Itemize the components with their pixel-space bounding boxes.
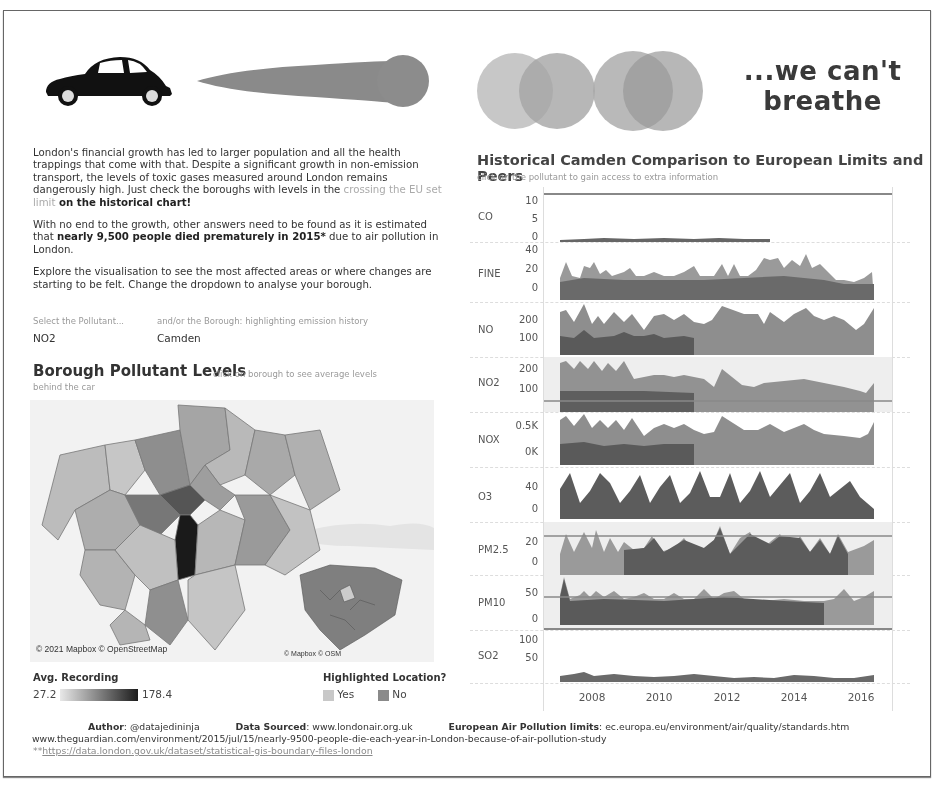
color-gradient-bar — [60, 689, 138, 701]
chart-x-axis: 2008 2010 2012 2014 2016 — [543, 683, 893, 711]
avg-recording-legend-title: Avg. Recording — [33, 672, 118, 683]
y-tick: 0 — [532, 503, 538, 514]
panel-label-no[interactable]: NO — [478, 324, 493, 335]
y-tick: 0.5K — [516, 420, 538, 431]
map-section-subtitle: click on borough to see average levels — [213, 369, 377, 379]
pollutant-filter-label: Select the Pollutant... — [33, 316, 124, 326]
y-tick: 200 — [519, 363, 538, 374]
pm25-y-axis: 20 0 — [500, 522, 538, 575]
co-y-axis: 10 5 0 — [500, 187, 538, 242]
data-source-label: Data Sourced — [236, 721, 307, 732]
panel-pm10[interactable]: PM10 50 0 — [470, 575, 910, 631]
gis-prefix: ** — [33, 745, 42, 756]
plot-no[interactable] — [543, 302, 893, 357]
y-tick: 0K — [525, 446, 538, 457]
footer-credits: Author: @datajedininja Data Sourced: www… — [33, 721, 913, 757]
no-label: No — [392, 688, 406, 700]
tagline: ...we can't breathe — [735, 56, 910, 116]
tagline-line-2: breathe — [735, 86, 910, 116]
plot-fine[interactable] — [543, 242, 893, 302]
panel-no[interactable]: NO 200 100 — [470, 302, 910, 358]
panel-label-co[interactable]: CO — [478, 211, 493, 222]
panel-label-fine[interactable]: FINE — [478, 268, 501, 279]
panel-pm25[interactable]: PM2.5 20 0 — [470, 522, 910, 576]
y-tick: 20 — [525, 536, 538, 547]
panel-no2[interactable]: NO2 200 100 — [470, 357, 910, 413]
panel-label-no2[interactable]: NO2 — [478, 377, 500, 388]
y-tick: 5 — [532, 213, 538, 224]
gis-boundary-link[interactable]: https://data.london.gov.uk/dataset/stati… — [42, 745, 372, 756]
author-value: : @datajedininja — [124, 721, 200, 732]
pollution-circles-icon — [475, 45, 715, 135]
so2-y-axis: 100 50 — [500, 630, 538, 683]
panel-label-o3[interactable]: O3 — [478, 491, 492, 502]
smoke-plume-icon — [195, 55, 435, 107]
highlight-legend-title: Highlighted Location? — [323, 672, 446, 683]
legend-min-value: 27.2 — [33, 688, 56, 700]
borough-filter-label: and/or the Borough: highlighting emissio… — [157, 316, 368, 326]
y-tick: 50 — [525, 587, 538, 598]
intro-p1-end: on the historical chart! — [55, 197, 191, 208]
no2-y-axis: 200 100 — [500, 357, 538, 412]
eu-limits-label: European Air Pollution limits — [449, 721, 600, 732]
panel-o3[interactable]: O3 40 0 — [470, 467, 910, 523]
y-tick: 100 — [519, 383, 538, 394]
intro-paragraph-1: London's financial growth has led to lar… — [33, 147, 443, 209]
o3-y-axis: 40 0 — [500, 467, 538, 522]
y-tick: 20 — [525, 263, 538, 274]
map-section-subtitle-2: behind the car — [33, 382, 95, 392]
y-tick: 50 — [525, 652, 538, 663]
y-tick: 100 — [519, 634, 538, 645]
legend-no-item[interactable]: No — [378, 688, 407, 701]
data-source-value: : www.londonair.org.uk — [306, 721, 412, 732]
borough-dropdown[interactable]: Camden — [157, 332, 357, 344]
intro-paragraph-2: With no end to the growth, other answers… — [33, 219, 443, 256]
y-tick: 10 — [525, 195, 538, 206]
intro-paragraph-3: Explore the visualisation to see the mos… — [33, 266, 443, 291]
eu-limits-value: : ec.europa.eu/environment/air/quality/s… — [599, 721, 849, 732]
plot-co[interactable] — [543, 187, 893, 242]
pm10-y-axis: 50 0 — [500, 575, 538, 630]
pollutant-dropdown[interactable]: NO2 — [33, 332, 143, 344]
plot-o3[interactable] — [543, 467, 893, 522]
x-tick: 2016 — [848, 691, 875, 703]
map-credit-inset: © Mapbox © OSM — [284, 650, 341, 658]
panel-label-nox[interactable]: NOX — [478, 434, 500, 445]
y-tick: 200 — [519, 314, 538, 325]
yes-swatch — [323, 690, 334, 701]
panel-so2[interactable]: SO2 100 50 — [470, 630, 910, 684]
tagline-line-1: ...we can't — [735, 56, 910, 86]
legend-yes-item[interactable]: Yes — [323, 688, 354, 701]
chart-subtitle: click on the pollutant to gain access to… — [477, 172, 718, 182]
y-tick: 100 — [519, 332, 538, 343]
footer-line-1: Author: @datajedininja Data Sourced: www… — [33, 721, 913, 733]
borough-map[interactable]: © 2021 Mapbox © OpenStreetMap © Mapbox ©… — [30, 400, 434, 662]
y-tick: 0 — [532, 282, 538, 293]
panel-label-so2[interactable]: SO2 — [478, 650, 499, 661]
no-swatch — [378, 690, 389, 701]
no-y-axis: 200 100 — [500, 302, 538, 357]
plot-so2[interactable] — [543, 630, 893, 683]
borough-map-shapes: © 2021 Mapbox © OpenStreetMap © Mapbox ©… — [30, 400, 434, 662]
plot-no2[interactable] — [543, 357, 893, 412]
y-tick: 0 — [532, 556, 538, 567]
panel-nox[interactable]: NOX 0.5K 0K — [470, 412, 910, 468]
y-tick: 40 — [525, 481, 538, 492]
y-tick: 0 — [532, 231, 538, 242]
x-tick: 2012 — [714, 691, 741, 703]
plot-pm10[interactable] — [543, 575, 893, 630]
intro-text: London's financial growth has led to lar… — [33, 147, 443, 301]
yes-label: Yes — [337, 688, 354, 700]
author-label: Author — [88, 721, 124, 732]
x-tick: 2010 — [646, 691, 673, 703]
x-tick: 2008 — [579, 691, 606, 703]
y-tick: 0 — [532, 613, 538, 624]
panel-fine[interactable]: FINE 40 20 0 — [470, 242, 910, 303]
plot-pm25[interactable] — [543, 522, 893, 575]
legend-max-value: 178.4 — [142, 688, 172, 700]
guardian-source-link[interactable]: www.theguardian.com/environment/2015/jul… — [32, 733, 913, 745]
panel-co[interactable]: CO 10 5 0 — [470, 187, 910, 243]
y-tick: 40 — [525, 244, 538, 255]
plot-nox[interactable] — [543, 412, 893, 467]
deaths-statistic: nearly 9,500 people died prematurely in … — [57, 231, 326, 242]
